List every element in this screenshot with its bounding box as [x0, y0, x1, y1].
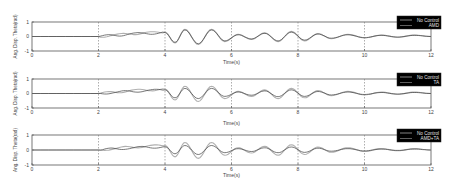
x-tick-label: 0 — [31, 52, 34, 58]
x-tick-label: 8 — [297, 52, 300, 58]
y-tick-label: 1 — [26, 132, 29, 138]
x-axis-label: Time(s) — [223, 172, 240, 178]
x-tick-label: 8 — [297, 109, 300, 115]
legend-entry: TA — [433, 80, 439, 85]
legend: No ControlAMD+TA — [397, 129, 441, 142]
y-tick-label: -1 — [25, 105, 30, 111]
x-tick-label: 4 — [164, 109, 167, 115]
x-tick-label: 2 — [97, 109, 100, 115]
x-tick-label: 12 — [428, 166, 434, 172]
x-tick-label: 2 — [97, 166, 100, 172]
subplot-2: 024681012-101Ang. Disp. Theta(rad)Time(s… — [13, 71, 441, 126]
legend: No ControlTA — [397, 73, 441, 86]
y-tick-label: 1 — [26, 19, 29, 25]
x-axis-label: Time(s) — [223, 120, 240, 126]
legend-entry: AMD+TA — [421, 136, 440, 141]
x-tick-label: 10 — [362, 166, 368, 172]
x-tick-label: 2 — [97, 52, 100, 58]
legend: No ControlAMD — [397, 16, 441, 29]
x-tick-label: 4 — [164, 166, 167, 172]
y-axis-label: Ang. Disp. Theta(rad) — [13, 14, 18, 58]
y-axis-label: Ang. Disp. Theta(rad) — [13, 71, 18, 115]
x-tick-label: 6 — [230, 52, 233, 58]
y-tick-label: 1 — [26, 76, 29, 82]
legend-entry: AMD — [429, 23, 440, 28]
x-tick-label: 4 — [164, 52, 167, 58]
y-tick-label: -1 — [25, 162, 30, 168]
x-tick-label: 0 — [31, 109, 34, 115]
x-tick-label: 12 — [428, 52, 434, 58]
x-tick-label: 10 — [362, 109, 368, 115]
y-axis-label: Ang. Disp. Theta(rad) — [13, 128, 18, 172]
subplot-1: 024681012-101Ang. Disp. Theta(rad)Time(s… — [13, 14, 441, 65]
x-tick-label: 8 — [297, 166, 300, 172]
subplot-3: 024681012-101Ang. Disp. Theta(rad)Time(s… — [13, 128, 441, 178]
x-tick-label: 10 — [362, 52, 368, 58]
y-tick-label: 0 — [26, 33, 29, 39]
y-tick-label: 0 — [26, 147, 29, 153]
x-axis-label: Time(s) — [223, 59, 240, 65]
figure: 024681012-101Ang. Disp. Theta(rad)Time(s… — [0, 0, 453, 185]
legend-entry: No Control — [417, 75, 439, 80]
y-tick-label: 0 — [26, 90, 29, 96]
legend-entry: No Control — [417, 18, 439, 23]
y-tick-label: -1 — [25, 48, 30, 54]
x-tick-label: 6 — [230, 109, 233, 115]
legend-entry: No Control — [417, 131, 439, 136]
x-tick-label: 0 — [31, 166, 34, 172]
x-tick-label: 12 — [428, 109, 434, 115]
